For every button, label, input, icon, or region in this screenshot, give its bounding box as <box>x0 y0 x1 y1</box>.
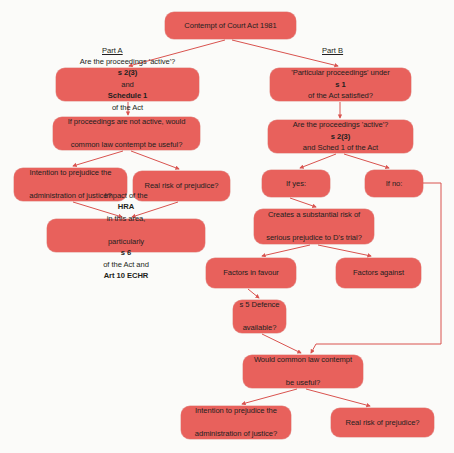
node-part-a-active-proceedings[interactable]: Are the proceedings 'active'? s 2(3)and … <box>56 68 199 101</box>
connector-a2-a3 <box>73 151 123 166</box>
connector-b3-b5 <box>290 198 316 207</box>
node-substantial-risk-serious-prejudice[interactable]: Creates a substantial risk ofserious pre… <box>254 209 374 244</box>
node-text: Would common law contemptbe useful? <box>248 354 358 389</box>
node-part-b-active-proceedings[interactable]: Are the proceedings 'active'? s 2(3)and … <box>268 120 413 153</box>
connector-b9-c1 <box>242 389 297 404</box>
connector-b5-b6 <box>262 245 310 256</box>
connector-a2-a4 <box>131 151 179 169</box>
node-text: Creates a substantial risk ofserious pre… <box>259 209 369 244</box>
node-text: Are the proceedings 'active'? s 2(3)and … <box>61 56 194 114</box>
node-s5-defence-available[interactable]: s 5 Defenceavailable? <box>233 300 286 333</box>
connector-b2-b4 <box>344 154 389 168</box>
connector-b6-b8 <box>248 289 259 298</box>
node-text: Contempt of Court Act 1981 <box>170 20 291 32</box>
node-text: Intention to prejudice theadministration… <box>186 405 286 440</box>
node-text: s 5 Defenceavailable? <box>238 299 281 334</box>
node-factors-against[interactable]: Factors against <box>336 258 421 288</box>
node-real-risk-of-prejudice-b[interactable]: Real risk of prejudice? <box>331 408 434 437</box>
node-text: If proceedings are not active, wouldcomm… <box>58 116 195 151</box>
node-text: 'Particular proceedings' under s 1of the… <box>275 67 406 102</box>
node-text: If no: <box>370 178 418 190</box>
node-would-common-law-contempt-be-useful[interactable]: Would common law contemptbe useful? <box>243 355 363 388</box>
node-part-b-particular-proceedings[interactable]: 'Particular proceedings' under s 1of the… <box>270 68 411 101</box>
connector-b9-c2 <box>306 389 370 406</box>
node-text: Real risk of prejudice? <box>336 417 429 429</box>
node-factors-in-favour[interactable]: Factors in favour <box>206 258 296 288</box>
node-intention-to-prejudice-b[interactable]: Intention to prejudice theadministration… <box>181 406 291 439</box>
label-part-a: Part A <box>102 46 123 55</box>
node-text: Are the proceedings 'active'? s 2(3)and … <box>273 119 408 154</box>
node-text: If yes: <box>267 178 325 190</box>
node-contempt-of-court-act[interactable]: Contempt of Court Act 1981 <box>165 12 296 39</box>
node-impact-of-hra[interactable]: Impact of the HRA in this area,particula… <box>47 219 205 252</box>
connector-b5-b7 <box>318 245 371 256</box>
connector-b2-b3 <box>300 154 336 168</box>
node-proceedings-not-active-common-law[interactable]: If proceedings are not active, wouldcomm… <box>53 117 200 150</box>
node-if-yes[interactable]: If yes: <box>262 170 330 197</box>
node-text: Factors in favour <box>211 267 291 279</box>
flowchart-canvas: Part A Part B Contempt of Court Act 1981… <box>0 0 454 453</box>
label-part-b: Part B <box>322 46 343 55</box>
connector-b8-b9 <box>262 334 301 353</box>
node-if-no[interactable]: If no: <box>365 170 423 197</box>
node-text: Impact of the HRA in this area,particula… <box>52 190 200 282</box>
node-text: Factors against <box>341 267 416 279</box>
